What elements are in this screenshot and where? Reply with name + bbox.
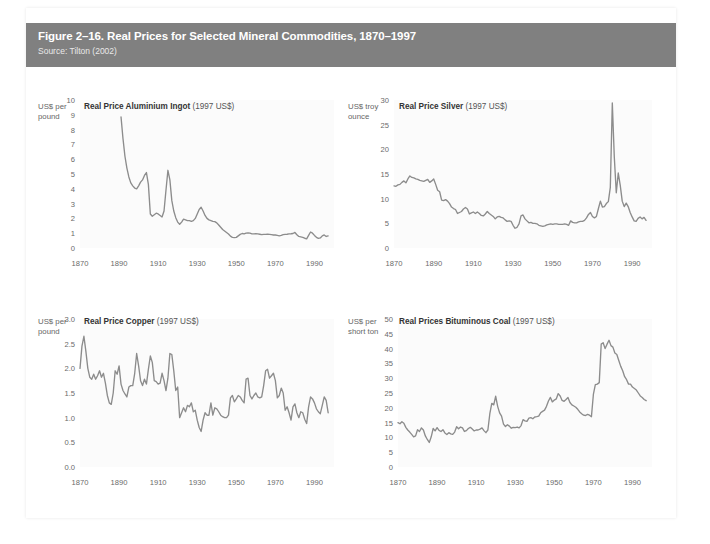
chart-panel-aluminium: US$ per pound Real Price Aluminium Ingot… bbox=[34, 86, 354, 286]
svg-text:1990: 1990 bbox=[306, 478, 323, 487]
svg-text:10: 10 bbox=[67, 96, 75, 105]
unit-line-1: US$ per bbox=[348, 317, 378, 327]
svg-text:1970: 1970 bbox=[584, 259, 601, 268]
unit-line-2: short ton bbox=[348, 327, 378, 337]
svg-text:1890: 1890 bbox=[425, 259, 442, 268]
svg-text:15: 15 bbox=[381, 170, 389, 179]
svg-text:40: 40 bbox=[385, 345, 393, 354]
svg-text:0.5: 0.5 bbox=[64, 438, 75, 447]
svg-text:9: 9 bbox=[71, 111, 75, 120]
svg-text:0.0: 0.0 bbox=[64, 463, 75, 472]
chart-title-aluminium: Real Price Aluminium Ingot (1997 US$) bbox=[84, 102, 234, 112]
svg-text:0: 0 bbox=[71, 244, 75, 253]
svg-text:1.0: 1.0 bbox=[64, 414, 75, 423]
svg-text:1870: 1870 bbox=[390, 478, 407, 487]
svg-text:35: 35 bbox=[385, 359, 393, 368]
unit-line-1: US$ troy bbox=[348, 102, 378, 112]
svg-text:45: 45 bbox=[385, 330, 393, 339]
chart-panel-silver: US$ troy ounce Real Price Silver (1997 U… bbox=[344, 86, 674, 286]
chart-panel-coal: US$ per short ton Real Prices Bituminous… bbox=[344, 303, 674, 503]
figure-card: Figure 2–16. Real Prices for Selected Mi… bbox=[26, 8, 676, 518]
chart-title-units: (1997 US$) bbox=[155, 317, 199, 326]
svg-text:10: 10 bbox=[385, 433, 393, 442]
svg-text:20: 20 bbox=[381, 145, 389, 154]
chart-unit-label-coal: US$ per short ton bbox=[348, 317, 378, 336]
svg-text:8: 8 bbox=[71, 126, 75, 135]
svg-text:1970: 1970 bbox=[267, 259, 284, 268]
figure-source: Source: Tilton (2002) bbox=[38, 45, 676, 57]
svg-text:1930: 1930 bbox=[189, 478, 206, 487]
chart-unit-label-copper: US$ per pound bbox=[38, 317, 67, 336]
svg-text:1910: 1910 bbox=[468, 478, 485, 487]
svg-text:2.5: 2.5 bbox=[64, 340, 75, 349]
page-title: Figure 2–16. Real Prices for Selected Mi… bbox=[38, 29, 676, 43]
figure-header: Figure 2–16. Real Prices for Selected Mi… bbox=[26, 23, 676, 67]
svg-text:25: 25 bbox=[385, 389, 393, 398]
chart-unit-label-aluminium: US$ per pound bbox=[38, 102, 67, 121]
svg-text:1890: 1890 bbox=[429, 478, 446, 487]
svg-text:1990: 1990 bbox=[624, 259, 641, 268]
svg-text:1870: 1870 bbox=[72, 478, 89, 487]
svg-text:1870: 1870 bbox=[386, 259, 403, 268]
svg-text:1: 1 bbox=[71, 229, 75, 238]
svg-text:20: 20 bbox=[385, 404, 393, 413]
svg-text:30: 30 bbox=[381, 96, 389, 105]
svg-text:1930: 1930 bbox=[505, 259, 522, 268]
svg-text:10: 10 bbox=[381, 195, 389, 204]
svg-text:2: 2 bbox=[71, 214, 75, 223]
chart-title-main: Real Prices Bituminous Coal bbox=[399, 317, 510, 326]
chart-unit-label-silver: US$ troy ounce bbox=[348, 102, 378, 121]
svg-text:1930: 1930 bbox=[507, 478, 524, 487]
svg-text:1910: 1910 bbox=[150, 259, 167, 268]
svg-text:0: 0 bbox=[385, 244, 389, 253]
svg-text:15: 15 bbox=[385, 419, 393, 428]
unit-line-2: pound bbox=[38, 112, 67, 122]
svg-text:1910: 1910 bbox=[465, 259, 482, 268]
svg-text:1950: 1950 bbox=[544, 259, 561, 268]
chart-plot-silver: 0510152025301870189019101930195019701990 bbox=[344, 86, 674, 286]
svg-text:5: 5 bbox=[385, 219, 389, 228]
chart-plot-copper: 0.00.51.01.52.02.53.01870189019101930195… bbox=[34, 303, 354, 503]
chart-title-main: Real Price Silver bbox=[399, 102, 463, 111]
chart-title-copper: Real Price Copper (1997 US$) bbox=[84, 317, 199, 327]
svg-text:1990: 1990 bbox=[306, 259, 323, 268]
svg-text:1950: 1950 bbox=[228, 259, 245, 268]
svg-text:25: 25 bbox=[381, 121, 389, 130]
chart-title-units: (1997 US$) bbox=[190, 102, 234, 111]
chart-panel-copper: US$ per pound Real Price Copper (1997 US… bbox=[34, 303, 354, 503]
unit-line-1: US$ per bbox=[38, 102, 67, 112]
svg-text:1950: 1950 bbox=[546, 478, 563, 487]
svg-text:6: 6 bbox=[71, 155, 75, 164]
chart-title-units: (1997 US$) bbox=[510, 317, 554, 326]
svg-text:1910: 1910 bbox=[150, 478, 167, 487]
svg-text:3: 3 bbox=[71, 200, 75, 209]
svg-text:1950: 1950 bbox=[228, 478, 245, 487]
unit-line-1: US$ per bbox=[38, 317, 67, 327]
chart-title-coal: Real Prices Bituminous Coal (1997 US$) bbox=[399, 317, 555, 327]
unit-line-2: pound bbox=[38, 327, 67, 337]
chart-title-main: Real Price Aluminium Ingot bbox=[84, 102, 190, 111]
unit-line-2: ounce bbox=[348, 112, 378, 122]
svg-text:1890: 1890 bbox=[111, 478, 128, 487]
svg-text:0: 0 bbox=[389, 463, 393, 472]
svg-text:5: 5 bbox=[71, 170, 75, 179]
chart-title-units: (1997 US$) bbox=[463, 102, 507, 111]
svg-text:1930: 1930 bbox=[189, 259, 206, 268]
svg-text:30: 30 bbox=[385, 374, 393, 383]
svg-text:7: 7 bbox=[71, 140, 75, 149]
svg-text:1890: 1890 bbox=[111, 259, 128, 268]
svg-text:4: 4 bbox=[71, 185, 75, 194]
chart-plot-aluminium: 0123456789101870189019101930195019701990 bbox=[34, 86, 354, 286]
svg-text:1870: 1870 bbox=[72, 259, 89, 268]
svg-text:1970: 1970 bbox=[585, 478, 602, 487]
svg-text:1.5: 1.5 bbox=[64, 389, 75, 398]
svg-text:1990: 1990 bbox=[624, 478, 641, 487]
svg-text:1970: 1970 bbox=[267, 478, 284, 487]
svg-text:50: 50 bbox=[385, 315, 393, 324]
chart-plot-coal: 0510152025303540455018701890191019301950… bbox=[344, 303, 674, 503]
chart-title-silver: Real Price Silver (1997 US$) bbox=[399, 102, 507, 112]
chart-title-main: Real Price Copper bbox=[84, 317, 155, 326]
svg-text:5: 5 bbox=[389, 448, 393, 457]
svg-text:2.0: 2.0 bbox=[64, 364, 75, 373]
